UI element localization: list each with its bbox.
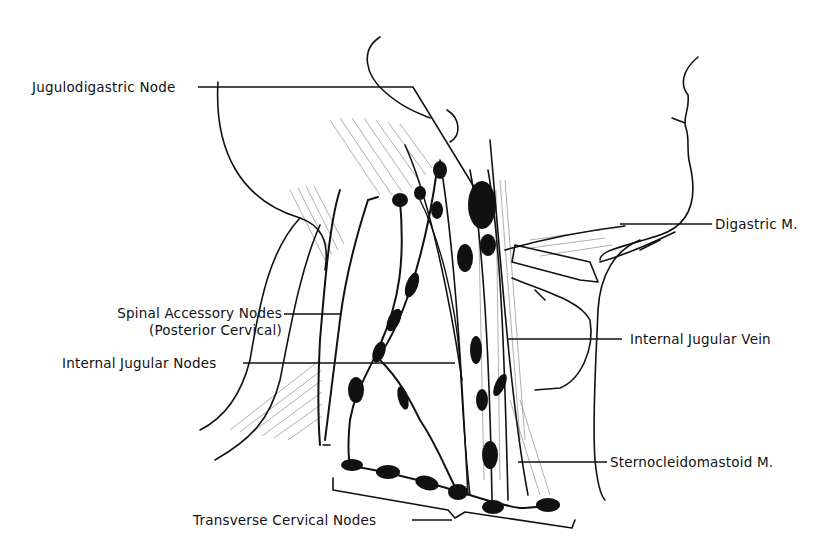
face-profile — [600, 57, 698, 260]
label-internal-jugular-nodes: Internal Jugular Nodes — [62, 355, 217, 371]
label-sternocleidomastoid-muscle: Sternocleidomastoid M. — [610, 454, 773, 470]
neck-lymph-node-diagram: Jugulodigastric Node Spinal Accessory No… — [0, 0, 835, 560]
label-jugulodigastric-node: Jugulodigastric Node — [32, 79, 175, 95]
head-outline — [218, 82, 327, 270]
label-internal-jugular-vein: Internal Jugular Vein — [630, 331, 771, 347]
label-posterior-cervical: (Posterior Cervical) — [86, 322, 282, 338]
label-transverse-cervical-nodes: Transverse Cervical Nodes — [193, 512, 376, 528]
lymph-nodes — [341, 161, 560, 514]
scm-right-border — [490, 140, 528, 495]
label-digastric-muscle: Digastric M. — [715, 216, 798, 232]
ear-outline — [367, 37, 430, 118]
leader-jugulodigastric — [198, 87, 482, 200]
spinal-accessory-chain — [325, 197, 378, 440]
muscle-hatching — [230, 118, 612, 495]
label-spinal-accessory-nodes: Spinal Accessory Nodes — [86, 305, 282, 321]
jugulodigastric-node-shape — [468, 181, 496, 229]
